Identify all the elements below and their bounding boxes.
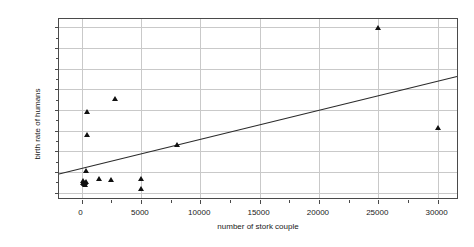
scatter-chart-figure: birth rate of humans 0200400600800100012… [0,0,474,247]
data-point-marker [138,186,144,191]
x-tick-mark [260,200,261,204]
x-tick-mark [378,200,379,204]
data-point-marker [112,96,118,101]
y-tick-mark [55,193,59,194]
x-tick-label: 10000 [169,209,229,217]
x-tick-label: 5000 [110,209,170,217]
y-tick-minor [56,182,59,183]
x-tick-label: 0 [51,209,111,217]
y-tick-minor [56,38,59,39]
data-point-marker [83,168,89,173]
y-tick-minor [56,100,59,101]
x-axis-title: number of stork couple [58,222,458,231]
data-point-marker [83,179,89,184]
data-point-marker [108,177,114,182]
x-tick-label: 15000 [229,209,289,217]
x-tick-minor [230,200,231,203]
y-tick-mark [55,151,59,152]
x-tick-minor [289,200,290,203]
y-tick-mark [55,131,59,132]
x-tick-minor [408,200,409,203]
y-tick-mark [55,89,59,90]
y-tick-minor [56,58,59,59]
x-tick-mark [438,200,439,204]
plot-area [58,18,458,199]
x-tick-minor [171,200,172,203]
y-tick-mark [55,172,59,173]
y-tick-minor [56,120,59,121]
data-point-marker [84,109,90,114]
x-tick-minor [111,200,112,203]
data-point-marker [375,25,381,30]
data-point-marker [435,125,441,130]
y-tick-mark [55,27,59,28]
y-tick-mark [55,48,59,49]
x-tick-label: 20000 [288,209,348,217]
y-tick-minor [56,141,59,142]
y-tick-mark [55,69,59,70]
y-tick-mark [55,110,59,111]
x-tick-label: 30000 [407,209,467,217]
data-point-marker [96,176,102,181]
data-point-marker [84,132,90,137]
data-point-marker [138,176,144,181]
x-tick-minor [349,200,350,203]
y-tick-minor [56,79,59,80]
x-tick-mark [200,200,201,204]
x-tick-mark [141,200,142,204]
data-point-marker [174,142,180,147]
y-axis-title: birth rate of humans [33,88,42,159]
regression-line [59,19,457,198]
x-tick-mark [319,200,320,204]
x-tick-label: 25000 [347,209,407,217]
x-tick-mark [82,200,83,204]
y-tick-minor [56,162,59,163]
